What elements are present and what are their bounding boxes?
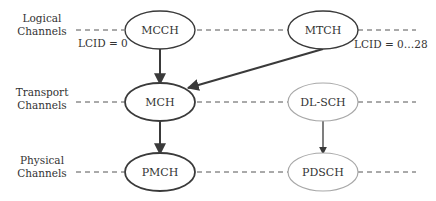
node-pmch-label: PMCH — [142, 166, 179, 179]
node-mcch-label: MCCH — [141, 24, 179, 37]
mtch-lcid-annotation: LCID = 0…28 — [354, 38, 428, 50]
node-dlsch-label: DL-SCH — [300, 96, 345, 109]
layer-label-transport-line1: Transport — [16, 86, 69, 98]
node-mtch: MTCH — [288, 11, 358, 49]
layer-label-logical-line1: Logical — [23, 12, 63, 24]
node-mtch-label: MTCH — [305, 24, 342, 37]
node-pmch: PMCH — [125, 153, 195, 191]
channel-mapping-diagram: Logical Channels Transport Channels Phys… — [0, 0, 436, 201]
mcch-lcid-annotation: LCID = 0 — [78, 37, 128, 49]
layer-label-logical-line2: Channels — [17, 25, 67, 37]
layer-label-physical-line2: Channels — [17, 167, 67, 179]
node-dlsch: DL-SCH — [288, 83, 358, 121]
node-mch: MCH — [125, 83, 195, 121]
node-mch-label: MCH — [145, 96, 174, 109]
node-mcch: MCCH — [125, 11, 195, 49]
layer-label-transport-line2: Channels — [17, 99, 67, 111]
node-pdsch-label: PDSCH — [302, 166, 344, 179]
edge-mtch-to-mch — [188, 49, 323, 88]
node-pdsch: PDSCH — [288, 153, 358, 191]
layer-label-physical-line1: Physical — [20, 154, 65, 166]
